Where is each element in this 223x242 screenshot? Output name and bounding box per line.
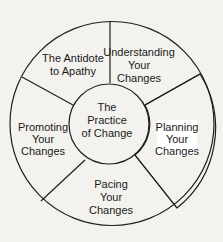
segment-label-line: Promoting (18, 121, 68, 133)
segment-label-line: Your (166, 133, 189, 145)
segment-label-line: Changes (117, 72, 162, 84)
segment-antidote: The Antidote to Apathy (42, 52, 104, 77)
divider-lower-right (135, 155, 177, 208)
segment-label-line: Planning (156, 121, 199, 133)
segment-label-line: Your (128, 59, 151, 71)
divider-lower-left (41, 160, 85, 201)
segment-label-line: The Antidote (42, 52, 104, 64)
divider-upper-left (22, 77, 73, 105)
segment-pacing: Pacing Your Changes (89, 178, 134, 216)
segment-understanding: Understanding Your Changes (103, 46, 175, 84)
segment-label-line: Pacing (94, 178, 128, 190)
segment-label-line: to Apathy (50, 65, 96, 77)
segment-label-line: Your (32, 133, 55, 145)
center-label-line: Practice (87, 114, 127, 126)
practice-of-change-wheel: The Practice of Change The Antidote to A… (0, 0, 223, 242)
segment-label-line: Understanding (103, 46, 175, 58)
center-label-line: The (98, 101, 117, 113)
segment-label-line: Changes (21, 145, 66, 157)
segment-label-line: Changes (155, 145, 200, 157)
segment-promoting: Promoting Your Changes (18, 121, 68, 157)
center-label-line: of Change (82, 127, 133, 139)
center-label: The Practice of Change (82, 101, 133, 139)
segment-label-line: Changes (89, 204, 134, 216)
segment-label-line: Your (100, 191, 123, 203)
